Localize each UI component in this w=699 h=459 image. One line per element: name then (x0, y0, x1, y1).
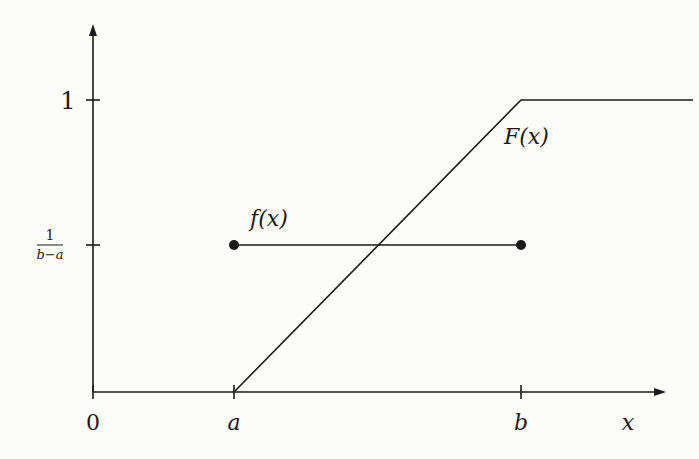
x-tick-label-b: b (514, 410, 528, 435)
x-axis-arrow-icon (654, 388, 666, 396)
y-tick-label-1: 1 (60, 87, 75, 115)
y-axis-arrow-icon (89, 24, 97, 36)
y-tick-label-density-num: 1 (46, 227, 55, 243)
x-tick-label-0: 0 (86, 410, 100, 435)
x-tick-label-a: a (227, 410, 240, 435)
density-end-dot (516, 240, 526, 250)
cdf-label: F(x) (503, 124, 549, 149)
y-tick-label-density-den: b−a (37, 247, 64, 262)
uniform-distribution-diagram: 1 1 b−a 0 a b x f(x) F(x) (0, 0, 699, 459)
x-axis-label: x (622, 410, 635, 435)
density-start-dot (229, 240, 239, 250)
cdf-curve (234, 100, 693, 392)
density-label: f(x) (248, 206, 288, 231)
